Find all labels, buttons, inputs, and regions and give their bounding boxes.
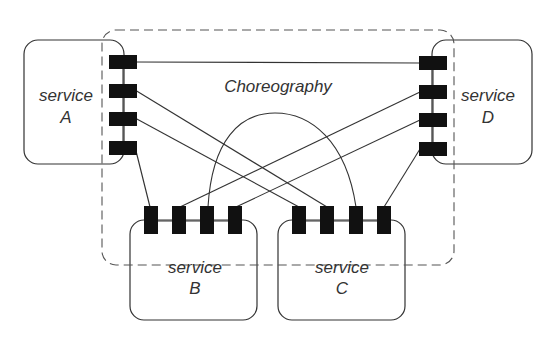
service-d-port-3 [419, 113, 447, 127]
service-b-label: service [168, 258, 222, 277]
service-b-port-2 [172, 206, 186, 234]
service-a-port-1 [109, 55, 137, 69]
connection-a1-d1 [135, 62, 420, 63]
service-b-port-1 [144, 206, 158, 234]
connection-a4-b1 [135, 147, 150, 207]
service-c-port-2 [320, 206, 334, 234]
service-c-label: service [315, 258, 369, 277]
service-a-label: service [39, 86, 93, 105]
service-a-port-2 [109, 84, 137, 98]
service-d-id: D [482, 108, 494, 127]
service-c-port-4 [377, 206, 391, 234]
service-a-port-3 [109, 112, 137, 126]
service-d-port-4 [419, 142, 447, 156]
service-b-id: B [189, 279, 200, 298]
service-c-id: C [336, 279, 349, 298]
service-d-port-1 [419, 56, 447, 70]
choreography-diagram: Choreography service A service D service… [0, 0, 560, 350]
connection-b3-c3 [208, 113, 356, 207]
connection-d2-b2 [180, 92, 420, 207]
connection-a3-c1 [135, 118, 299, 207]
service-c-port-1 [292, 206, 306, 234]
connection-d4-c4 [384, 149, 420, 207]
service-c-port-3 [349, 206, 363, 234]
connection-a2-c2 [135, 90, 327, 207]
service-a-id: A [59, 108, 71, 127]
service-d-port-2 [419, 85, 447, 99]
service-b-port-4 [228, 206, 242, 234]
service-b-port-3 [200, 206, 214, 234]
service-a-port-4 [109, 141, 137, 155]
choreography-label: Choreography [224, 77, 333, 96]
service-d-label: service [461, 86, 515, 105]
